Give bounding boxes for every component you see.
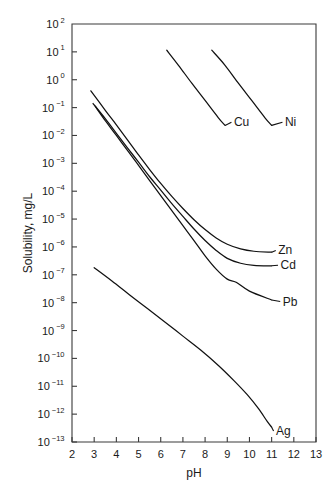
- x-tick-label: 2: [69, 448, 75, 460]
- solubility-vs-ph-figure: 2345678910111213 10210110010−110−210−310…: [0, 0, 335, 490]
- y-tick-exponent: 0: [61, 71, 65, 80]
- y-tick-mantissa: 10: [42, 325, 54, 337]
- curve-cu: [167, 50, 225, 125]
- x-tick-label: 6: [158, 448, 164, 460]
- leader-zn: [272, 250, 276, 252]
- y-axis-title: Solubility, mg/L: [21, 192, 35, 273]
- y-tick-exponent: −6: [56, 238, 65, 247]
- y-tick-label: 10−12: [38, 406, 65, 421]
- y-tick-mantissa: 10: [42, 129, 54, 141]
- y-tick-mantissa: 10: [46, 74, 58, 86]
- y-tick-mantissa: 10: [42, 213, 54, 225]
- x-tick-label: 12: [288, 448, 300, 460]
- leader-ni: [272, 122, 283, 125]
- y-tick-mantissa: 10: [38, 352, 50, 364]
- y-tick-mantissa: 10: [42, 241, 54, 253]
- y-tick-label: 101: [46, 43, 64, 58]
- x-tick-label: 10: [243, 448, 255, 460]
- x-axis-ticks: 2345678910111213: [69, 437, 322, 460]
- x-tick-label: 3: [91, 448, 97, 460]
- curve-ag: [94, 268, 271, 428]
- x-tick-label: 9: [224, 448, 230, 460]
- y-tick-exponent: 2: [61, 16, 65, 25]
- y-tick-exponent: −2: [56, 127, 65, 136]
- y-tick-exponent: −8: [56, 294, 65, 303]
- x-tick-label: 8: [202, 448, 208, 460]
- y-tick-exponent: −10: [52, 350, 65, 359]
- series-label-ni: Ni: [285, 115, 296, 129]
- x-tick-label: 13: [310, 448, 322, 460]
- y-tick-exponent: −1: [56, 99, 65, 108]
- y-axis-ticks: 10210110010−110−210−310−410−510−610−710−…: [38, 16, 77, 449]
- y-tick-mantissa: 10: [46, 18, 58, 30]
- y-tick-label: 10−11: [38, 378, 64, 393]
- y-tick-label: 10−13: [38, 434, 65, 449]
- y-tick-label: 10−8: [42, 294, 65, 309]
- x-tick-label: 11: [266, 448, 277, 460]
- curve-ni: [212, 50, 272, 125]
- y-tick-label: 10−10: [38, 350, 65, 365]
- y-tick-exponent: −11: [52, 378, 64, 387]
- x-tick-label: 4: [113, 448, 119, 460]
- leader-cd: [272, 265, 278, 266]
- y-tick-mantissa: 10: [38, 408, 50, 420]
- y-tick-mantissa: 10: [38, 436, 50, 448]
- x-tick-label: 5: [135, 448, 141, 460]
- y-tick-exponent: −7: [56, 266, 65, 275]
- leader-cu: [225, 122, 231, 125]
- series-label-zn: Zn: [278, 243, 292, 257]
- y-tick-exponent: −3: [56, 155, 65, 164]
- x-axis-title: pH: [186, 466, 201, 480]
- leader-pb: [272, 300, 281, 302]
- y-tick-label: 10−7: [42, 266, 65, 281]
- x-tick-label: 7: [180, 448, 186, 460]
- y-tick-label: 10−9: [42, 322, 65, 337]
- y-tick-label: 100: [46, 71, 64, 86]
- y-tick-label: 10−5: [42, 211, 65, 226]
- y-tick-mantissa: 10: [42, 157, 54, 169]
- y-tick-label: 10−4: [42, 183, 65, 198]
- series-label-cd: Cd: [281, 258, 296, 272]
- chart-canvas: 2345678910111213 10210110010−110−210−310…: [0, 0, 335, 490]
- y-tick-mantissa: 10: [42, 185, 54, 197]
- y-tick-exponent: −12: [52, 406, 65, 415]
- leader-ag: [272, 427, 274, 431]
- curve-pb: [95, 106, 271, 300]
- y-tick-label: 102: [46, 16, 64, 31]
- y-tick-label: 10−3: [42, 155, 65, 170]
- y-tick-mantissa: 10: [42, 269, 54, 281]
- y-tick-mantissa: 10: [46, 46, 58, 58]
- series-label-ag: Ag: [276, 424, 291, 438]
- y-tick-exponent: −9: [56, 322, 65, 331]
- y-tick-exponent: −5: [56, 211, 65, 220]
- series-label-cu: Cu: [234, 115, 249, 129]
- y-tick-mantissa: 10: [38, 380, 50, 392]
- series-labels: CuNiZnCdPbAg: [234, 115, 298, 438]
- y-tick-mantissa: 10: [42, 102, 54, 114]
- y-tick-mantissa: 10: [42, 297, 54, 309]
- y-tick-label: 10−2: [42, 127, 65, 142]
- y-tick-label: 10−1: [42, 99, 65, 114]
- series-label-pb: Pb: [283, 295, 298, 309]
- data-curves: [91, 50, 283, 431]
- y-tick-exponent: 1: [61, 43, 65, 52]
- y-tick-label: 10−6: [42, 238, 65, 253]
- y-tick-exponent: −13: [52, 434, 65, 443]
- y-tick-exponent: −4: [56, 183, 65, 192]
